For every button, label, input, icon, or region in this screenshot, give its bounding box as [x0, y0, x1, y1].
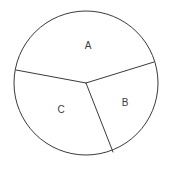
pie-diagram [0, 0, 172, 172]
sector-label-a: A [81, 41, 95, 51]
figure-canvas: A B C [0, 0, 172, 172]
sector-label-b: B [118, 98, 132, 108]
sector-label-c: C [54, 105, 68, 115]
